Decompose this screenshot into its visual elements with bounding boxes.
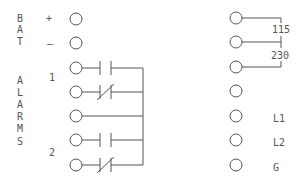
svg-text:M: M <box>17 123 23 134</box>
right-terminals <box>230 12 242 171</box>
terminal-power-2 <box>230 36 242 48</box>
plus-sign: + <box>46 13 52 24</box>
alarm-contacts <box>82 61 143 173</box>
terminal-alarm2-no <box>70 134 82 146</box>
label-115: 115 <box>272 24 290 35</box>
label-230: 230 <box>271 50 289 61</box>
svg-text:B: B <box>17 13 23 24</box>
svg-text:A: A <box>17 75 23 86</box>
terminal-alarm2-nc <box>70 159 82 171</box>
terminal-bat-minus <box>70 37 82 49</box>
svg-text:T: T <box>17 36 23 47</box>
alarms-label: A L A R M S <box>17 75 24 147</box>
left-terminals <box>70 13 82 171</box>
label-g: G <box>273 162 279 173</box>
svg-text:R: R <box>17 111 24 122</box>
svg-text:L: L <box>17 87 23 98</box>
terminal-power-3 <box>230 61 242 73</box>
terminal-g <box>230 159 242 171</box>
svg-text:A: A <box>17 99 23 110</box>
terminal-l2 <box>230 134 242 146</box>
terminal-blank <box>230 85 242 97</box>
svg-text:A: A <box>17 24 23 35</box>
alarm-1-number: 1 <box>49 72 55 83</box>
svg-text:S: S <box>17 136 23 147</box>
alarm-2-number: 2 <box>49 147 55 158</box>
terminal-alarm1-no <box>70 62 82 74</box>
terminal-power-1 <box>230 12 242 24</box>
terminal-l1 <box>230 110 242 122</box>
terminal-alarm1-nc <box>70 86 82 98</box>
minus-sign: – <box>47 38 54 49</box>
bat-label: B A T <box>17 13 23 47</box>
terminal-bat-plus <box>70 13 82 25</box>
label-l1: L1 <box>273 113 285 124</box>
label-l2: L2 <box>273 137 285 148</box>
wiring-diagram: B A T + – A L A R M S 1 2 <box>0 0 305 183</box>
terminal-common <box>70 110 82 122</box>
